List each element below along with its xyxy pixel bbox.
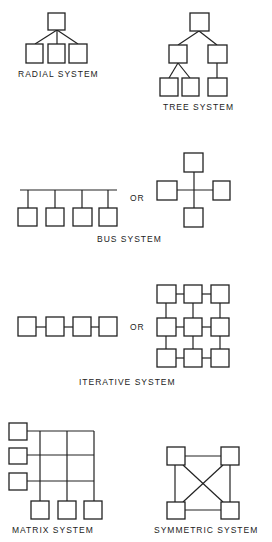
radial-system-label: RADIAL SYSTEM — [18, 69, 99, 79]
radial-node — [69, 44, 87, 63]
bus-node — [99, 208, 117, 226]
matrix-row-node — [9, 448, 27, 464]
system-topologies-figure — [0, 0, 272, 542]
iterative-node — [99, 317, 117, 336]
iterative-node — [211, 349, 229, 367]
symmetric-node — [221, 502, 239, 519]
matrix-row-node — [9, 423, 27, 440]
bus-node — [157, 181, 177, 200]
bus-node — [18, 208, 37, 226]
iterative-node — [184, 318, 202, 336]
radial-node — [26, 44, 43, 63]
matrix-column-node — [84, 501, 102, 519]
matrix-row-node — [9, 473, 27, 490]
tree-node — [169, 45, 187, 63]
bus-node — [184, 208, 203, 227]
tree-leaf-node — [160, 78, 178, 96]
tree-system-diagram — [160, 13, 227, 96]
radial-hub-node — [48, 13, 65, 30]
symmetric-node — [167, 447, 185, 465]
matrix-column-node — [58, 501, 76, 519]
iterative-system-label: ITERATIVE SYSTEM — [79, 377, 176, 387]
iterative-system-grid-diagram — [157, 285, 229, 367]
radial-node — [48, 44, 65, 63]
bus-node — [46, 208, 64, 226]
bus-system-linear-diagram — [18, 190, 117, 226]
bus-or-label: OR — [130, 193, 145, 203]
iterative-system-chain-diagram — [18, 317, 117, 336]
iterative-node — [184, 349, 202, 367]
tree-system-label: TREE SYSTEM — [163, 102, 234, 112]
bus-node — [184, 153, 203, 172]
iterative-node — [184, 285, 202, 303]
bus-system-cross-diagram — [157, 153, 230, 227]
matrix-system-diagram — [9, 423, 102, 519]
symmetric-system-diagram — [167, 447, 239, 519]
iterative-node — [73, 317, 91, 336]
iterative-node — [157, 349, 176, 367]
bus-system-label: BUS SYSTEM — [97, 234, 162, 244]
iterative-node — [157, 285, 176, 303]
tree-leaf-node — [208, 78, 227, 96]
matrix-column-node — [31, 501, 49, 519]
iterative-node — [211, 285, 229, 303]
iterative-or-label: OR — [130, 322, 145, 332]
tree-root-node — [190, 13, 209, 31]
iterative-node — [211, 318, 229, 336]
matrix-system-label: MATRIX SYSTEM — [12, 525, 94, 535]
iterative-node — [157, 318, 176, 336]
symmetric-node — [167, 502, 185, 519]
tree-node — [208, 45, 227, 63]
symmetric-node — [221, 447, 239, 465]
bus-node — [213, 181, 230, 200]
iterative-node — [46, 317, 64, 336]
radial-system-diagram — [26, 13, 87, 63]
iterative-node — [18, 317, 36, 336]
tree-leaf-node — [182, 78, 199, 96]
bus-node — [73, 208, 92, 226]
symmetric-system-label: SYMMETRIC SYSTEM — [154, 525, 258, 535]
